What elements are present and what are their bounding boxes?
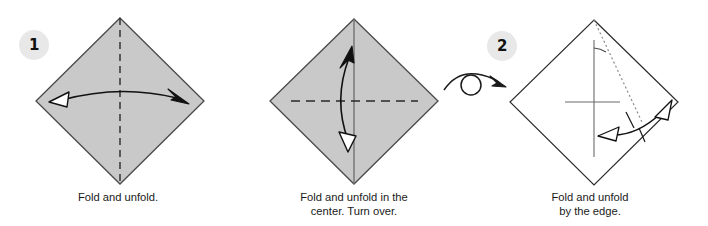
step-1-diagram: [0, 0, 236, 190]
step-3-caption: Fold and unfold by the edge.: [472, 190, 708, 218]
step-panel-1: 1 Fold and unfold.: [0, 0, 236, 226]
caption-line: Fold and unfold.: [0, 190, 236, 204]
step-1-caption: Fold and unfold.: [0, 190, 236, 204]
caption-line: Fold and unfold: [472, 190, 708, 204]
step-3-diagram: [472, 0, 708, 190]
step-2-diagram: [236, 0, 472, 190]
caption-line: center. Turn over.: [236, 204, 472, 218]
step-panel-2: 2 Fold and unfold in the center. Turn ov…: [236, 0, 472, 226]
origami-instructions-figure: 1 Fold and unfold. 2: [0, 0, 708, 226]
step-2-caption: Fold and unfold in the center. Turn over…: [236, 190, 472, 218]
caption-line: by the edge.: [472, 204, 708, 218]
step-panel-3: 3 Fold and unfold by the edge.: [472, 0, 708, 226]
caption-line: Fold and unfold in the: [236, 190, 472, 204]
